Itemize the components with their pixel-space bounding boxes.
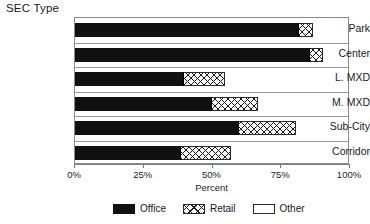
x-axis-tick-label: 100% xyxy=(337,169,361,180)
gridline xyxy=(75,67,348,68)
gridline xyxy=(75,116,348,117)
gridline xyxy=(75,92,348,93)
x-axis-tick xyxy=(280,165,281,168)
x-axis-tick-label: 75% xyxy=(271,169,290,180)
y-axis-label-sub-city: Sub-City xyxy=(302,120,370,132)
bar-segment-office xyxy=(75,23,299,37)
plot-area xyxy=(74,17,349,164)
stacked-bar-chart: SEC Type ParkCenterL. MXDM. MXDSub-CityC… xyxy=(0,0,370,224)
legend-label: Office xyxy=(140,203,166,214)
legend-item-office: Office xyxy=(113,203,166,214)
chart-title: SEC Type xyxy=(6,2,59,14)
x-axis-tick-label: 50% xyxy=(202,169,221,180)
x-axis-tick-label: 0% xyxy=(67,169,81,180)
crosshatch-swatch xyxy=(183,204,205,214)
chart-legend: OfficeRetailOther xyxy=(113,203,305,214)
solid-black-swatch xyxy=(113,204,135,214)
legend-item-other: Other xyxy=(253,203,305,214)
x-axis-tick xyxy=(212,165,213,168)
legend-item-retail: Retail xyxy=(183,203,236,214)
legend-label: Other xyxy=(280,203,305,214)
bar-segment-retail xyxy=(212,97,258,111)
x-axis-tick xyxy=(74,165,75,168)
y-axis-label-center: Center xyxy=(302,47,370,59)
bar-segment-office xyxy=(75,48,310,62)
y-axis-label-corridor: Corridor xyxy=(302,145,370,157)
x-axis-tick xyxy=(143,165,144,168)
bar-segment-office xyxy=(75,121,239,135)
bar-segment-retail xyxy=(184,72,225,86)
x-axis-tick-label: 25% xyxy=(133,169,152,180)
y-axis-label-m-mxd: M. MXD xyxy=(302,96,370,108)
bar-segment-office xyxy=(75,97,212,111)
y-axis-label-park: Park xyxy=(302,22,370,34)
x-axis-tick xyxy=(349,165,350,168)
bar-segment-office xyxy=(75,72,184,86)
y-axis-label-l-mxd: L. MXD xyxy=(302,71,370,83)
empty-swatch xyxy=(253,204,275,214)
bar-segment-retail xyxy=(239,121,296,135)
gridline xyxy=(75,43,348,44)
bar-segment-office xyxy=(75,146,181,160)
legend-label: Retail xyxy=(210,203,236,214)
gridline xyxy=(75,141,348,142)
bar-segment-retail xyxy=(181,146,230,160)
x-axis-title: Percent xyxy=(74,182,349,193)
